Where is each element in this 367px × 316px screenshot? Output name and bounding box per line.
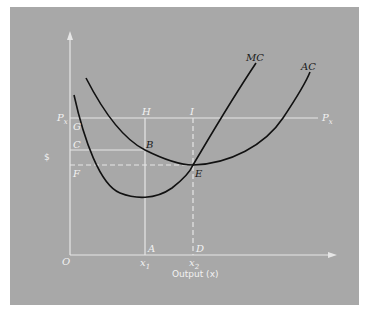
px-left-label: Px: [56, 112, 68, 126]
point-c-label: C: [73, 139, 81, 150]
point-g-label: G: [73, 121, 81, 132]
point-d-label: D: [195, 243, 204, 254]
point-i-label: I: [189, 106, 195, 117]
x-axis-arrow-icon: [328, 252, 337, 258]
point-b-label: B: [145, 139, 153, 150]
point-a-label: A: [147, 243, 155, 254]
cost-curve-chart: MC AC Px Px G H I C B F E A D O x1 x2 $ …: [0, 0, 367, 316]
x1-label: x1: [140, 257, 150, 271]
y-axis-arrow-icon: [67, 31, 73, 40]
ac-label: AC: [300, 61, 316, 72]
y-axis-title: $: [44, 152, 50, 162]
point-e-label: E: [194, 168, 203, 179]
origin-label: O: [62, 256, 70, 267]
point-f-label: F: [72, 168, 81, 179]
x-axis-title: Output (x): [172, 269, 218, 279]
px-right-label: Px: [321, 112, 333, 126]
mc-curve: [74, 63, 256, 197]
point-h-label: H: [141, 106, 151, 117]
mc-label: MC: [245, 52, 264, 63]
